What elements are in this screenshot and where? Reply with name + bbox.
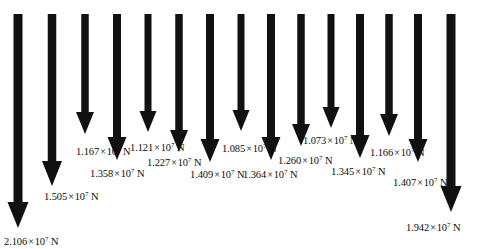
arrow-shaft [385, 14, 393, 115]
arrow-shaft [48, 14, 57, 162]
label-value: 1.409 [190, 169, 213, 180]
label-value: 1.407 [393, 177, 416, 188]
label-value: 1.085 [222, 143, 245, 154]
force-magnitude-label: 1.085×107N [222, 143, 276, 154]
label-unit: N [287, 169, 297, 180]
label-value: 1.227 [147, 157, 170, 168]
arrow-shaft [145, 14, 152, 112]
label-base: 10 [221, 169, 231, 180]
force-arrow [292, 14, 310, 146]
force-magnitude-label: 1.260×107N [278, 155, 332, 166]
arrow-shaft [14, 14, 23, 203]
label-base: 10 [107, 146, 117, 157]
multiplication-sign: × [113, 168, 121, 179]
multiplication-sign: × [67, 191, 75, 202]
arrow-shaft [175, 14, 183, 131]
force-magnitude-label: 1.358×107N [90, 168, 144, 179]
force-arrow [233, 14, 250, 131]
multiplication-sign: × [266, 169, 274, 180]
label-value: 1.166 [370, 147, 393, 158]
multiplication-sign: × [213, 169, 221, 180]
label-value: 1.073 [303, 135, 326, 146]
multiplication-sign: × [429, 222, 437, 233]
label-base: 10 [253, 143, 263, 154]
arrow-vector-layer [0, 0, 490, 249]
label-value: 1.505 [44, 191, 67, 202]
force-magnitude-label: 1.166×107N [370, 147, 424, 158]
force-arrow [262, 14, 281, 160]
arrow-shaft [206, 14, 214, 140]
label-value: 1.260 [278, 155, 301, 166]
force-arrow [140, 14, 157, 132]
label-unit: N [134, 168, 144, 179]
label-value: 1.121 [130, 142, 153, 153]
label-unit: N [48, 236, 58, 247]
label-value: 1.345 [331, 166, 354, 177]
multiplication-sign: × [301, 155, 309, 166]
label-unit: N [450, 222, 460, 233]
multiplication-sign: × [170, 157, 178, 168]
arrow-shaft [447, 14, 456, 187]
multiplication-sign: × [27, 236, 35, 247]
force-diagram-figure: 2.106×107N1.505×107N1.167×107N1.358×107N… [0, 0, 490, 249]
force-arrow [380, 14, 398, 136]
arrow-head [380, 114, 398, 136]
force-arrow [76, 14, 94, 134]
label-unit: N [174, 142, 184, 153]
label-base: 10 [437, 222, 447, 233]
label-value: 1.358 [90, 168, 113, 179]
arrow-head [42, 161, 62, 186]
arrow-shaft [81, 14, 89, 113]
label-base: 10 [362, 166, 372, 177]
label-unit: N [120, 146, 130, 157]
force-arrow [8, 14, 29, 228]
arrow-shaft [414, 14, 422, 140]
force-arrow [42, 14, 62, 186]
force-magnitude-label: 1.345×107N [331, 166, 385, 177]
label-base: 10 [309, 155, 319, 166]
arrow-head [201, 139, 220, 162]
force-magnitude-label: 1.505×107N [44, 191, 98, 202]
label-value: 1.942 [406, 222, 429, 233]
arrow-shaft [356, 14, 364, 136]
label-unit: N [347, 135, 357, 146]
arrow-head [233, 110, 250, 131]
arrow-shaft [238, 14, 245, 111]
arrow-head [323, 107, 340, 128]
force-arrow [201, 14, 220, 162]
label-unit: N [191, 157, 201, 168]
label-unit: N [437, 177, 447, 188]
label-unit: N [414, 147, 424, 158]
label-value: 1.167 [76, 146, 99, 157]
label-base: 10 [35, 236, 45, 247]
arrow-shaft [267, 14, 275, 138]
force-magnitude-label: 1.073×107N [303, 135, 357, 146]
multiplication-sign: × [99, 146, 107, 157]
label-value: 2.106 [4, 236, 27, 247]
multiplication-sign: × [393, 147, 401, 158]
arrow-head [441, 186, 462, 212]
label-unit: N [88, 191, 98, 202]
label-unit: N [322, 155, 332, 166]
label-base: 10 [75, 191, 85, 202]
force-magnitude-label: 1.167×107N [76, 146, 130, 157]
force-arrow [409, 14, 428, 162]
arrow-head [8, 202, 29, 228]
multiplication-sign: × [354, 166, 362, 177]
label-unit: N [266, 143, 276, 154]
arrow-shaft [297, 14, 305, 125]
force-magnitude-label: 1.364×107N [243, 169, 297, 180]
label-base: 10 [274, 169, 284, 180]
label-base: 10 [178, 157, 188, 168]
label-unit: N [375, 166, 385, 177]
label-base: 10 [334, 135, 344, 146]
force-magnitude-label: 1.409×107N [190, 169, 244, 180]
multiplication-sign: × [153, 142, 161, 153]
force-magnitude-label: 1.121×107N [130, 142, 184, 153]
force-arrow [170, 14, 188, 152]
label-base: 10 [121, 168, 131, 179]
label-base: 10 [401, 147, 411, 158]
arrow-head [140, 111, 157, 132]
force-magnitude-label: 2.106×107N [4, 236, 58, 247]
label-base: 10 [161, 142, 171, 153]
